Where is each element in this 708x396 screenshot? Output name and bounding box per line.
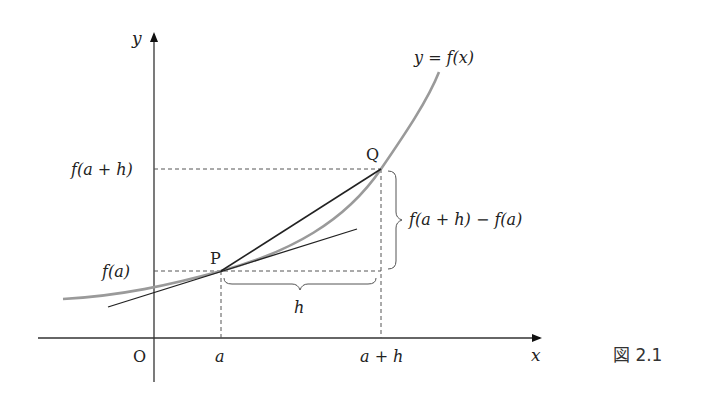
dashed-guides [154,169,381,338]
brace-diff [388,171,402,269]
brace-diff-label: f(a + h) − f(a) [408,210,522,229]
brace-h-label: h [294,298,304,317]
figure-diagram: y x O y = f(x) P Q a a + h f(a) f(a + h)… [0,0,708,396]
origin-label: O [133,347,146,366]
tangent-line [108,229,357,307]
tick-a-plus-h: a + h [360,347,403,366]
brace-h [224,278,376,290]
point-q-label: Q [366,145,379,164]
tick-fah: f(a + h) [70,160,133,179]
x-axis-label: x [531,345,541,365]
secant-line [221,169,381,271]
curve-label: y = f(x) [413,48,474,67]
y-axis-label: y [131,28,142,48]
figure-caption: 図 2.1 [613,345,662,365]
point-p-label: P [210,249,221,268]
tick-a: a [215,347,225,366]
tick-fa: f(a) [101,262,130,281]
